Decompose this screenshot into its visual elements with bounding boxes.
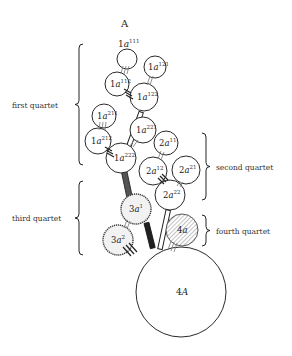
quartet-4: fourth quartet	[202, 215, 270, 246]
cell-1a121: 1a121	[144, 56, 169, 78]
quartet-label: first quartet	[12, 101, 58, 110]
quartet-3: third quartet	[12, 181, 83, 255]
brace	[202, 215, 210, 246]
quartet-label: fourth quartet	[216, 227, 270, 236]
brace	[75, 44, 83, 165]
quartet-label: third quartet	[12, 214, 61, 223]
cell-2a11: 2a11	[154, 131, 178, 155]
cell-label: 1a111	[118, 38, 140, 49]
cells-group: 1a1111a1211a1121a1221a2111a2211a2121a222…	[85, 38, 226, 337]
quartet-label: second quartet	[216, 163, 273, 172]
grey-bar-1a222	[122, 171, 133, 198]
cell-1a222: 1a222	[106, 143, 136, 173]
quartet-2: second quartet	[202, 133, 273, 200]
black-bar-3a1	[144, 222, 155, 248]
cell-1a221: 1a221	[130, 117, 157, 143]
cell-1a111: 1a111	[117, 38, 140, 69]
brace	[202, 133, 210, 200]
cell-label: 4a	[177, 225, 188, 235]
cell-1a112: 1a112	[105, 72, 131, 96]
cell-lineage-diagram: A 1a1111a1211a1121a1221a2111a2211a2121a2…	[0, 0, 292, 356]
cell-2a21: 2a21	[172, 156, 200, 184]
cell-circle	[117, 49, 137, 69]
cell-3a1: 3a1	[121, 194, 151, 224]
cell-label: 4A	[176, 287, 189, 297]
cell-1a122: 1a122	[130, 83, 158, 111]
quartet-braces: first quartetsecond quartetthird quartet…	[12, 44, 273, 255]
cell-3a2: 3a2	[103, 225, 133, 255]
cell-2a12: 2a12	[139, 157, 167, 185]
quartet-1: first quartet	[12, 44, 83, 165]
cell-1a211: 1a211	[92, 104, 118, 128]
diagram-title: A	[120, 18, 129, 29]
brace	[75, 181, 83, 255]
cell-4A: 4A	[136, 247, 226, 337]
cell-2a22: 2a22	[155, 180, 185, 210]
